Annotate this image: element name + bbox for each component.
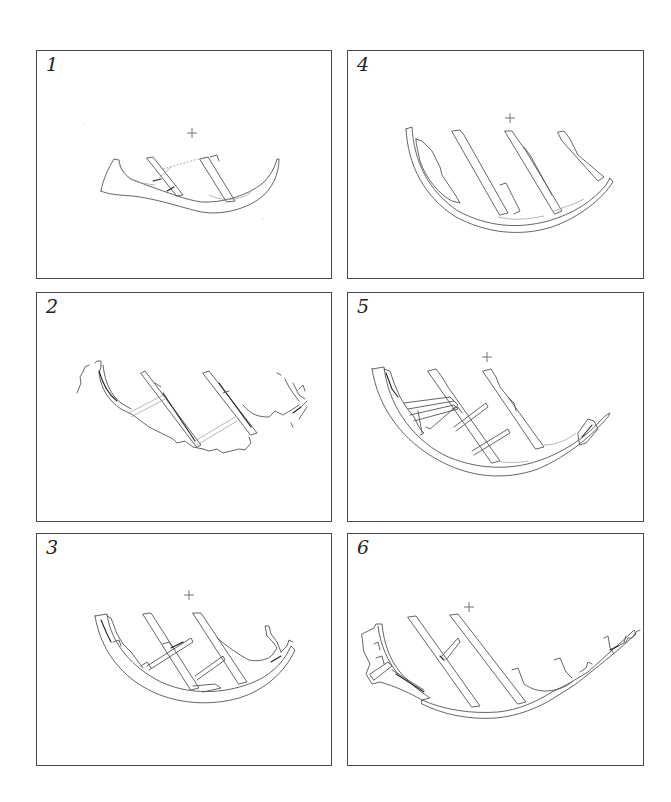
panel-1: 1	[36, 50, 332, 279]
panel-6: 6	[347, 533, 644, 766]
centerline-cross-icon	[187, 128, 197, 138]
hull-section-drawing-1	[37, 51, 333, 280]
panel-5: 5	[347, 292, 644, 522]
hull-section-drawing-6	[348, 534, 645, 767]
centerline-cross-icon	[505, 113, 515, 123]
hull-section-drawing-5	[348, 293, 645, 523]
hull-section-drawing-3	[37, 534, 333, 767]
hull-section-drawing-2	[37, 293, 333, 523]
panel-3: 3	[36, 533, 332, 766]
centerline-cross-icon	[482, 352, 492, 362]
panel-4: 4	[347, 50, 644, 279]
panel-2: 2	[36, 292, 332, 522]
centerline-cross-icon	[464, 602, 474, 612]
hull-section-drawing-4	[348, 51, 645, 280]
centerline-cross-icon	[184, 590, 194, 600]
